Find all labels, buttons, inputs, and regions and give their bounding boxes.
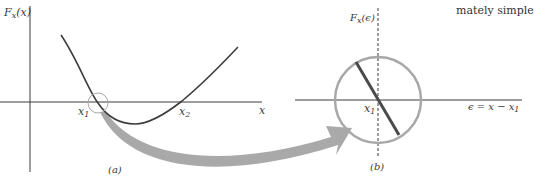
magnify-arrow: [100, 112, 352, 167]
body-text-fragment: mately simple: [456, 5, 534, 16]
panel-a-root-x1: x1: [78, 106, 89, 119]
panel-b-caption: (b): [370, 162, 384, 172]
panel-b-y-label: Fx(ϵ): [350, 13, 375, 25]
panel-a-x-label-text: x: [259, 104, 265, 117]
panel-b-x-label: ϵ = x − x1: [468, 102, 519, 114]
panel-b-y-label-arg: (ϵ): [361, 12, 374, 23]
panel-a-caption: (a): [108, 165, 122, 175]
origin-x1-sub: 1: [370, 107, 375, 116]
panel-a-y-label-arg: (x): [16, 6, 31, 19]
panel-b-x-label-sub: 1: [514, 105, 519, 114]
panel-b-origin-label: x1: [364, 103, 375, 116]
panel-a-x-label: x: [259, 105, 265, 116]
panel-b-y-label-main: F: [350, 12, 357, 23]
panel-a-y-label: Fx(x): [4, 7, 31, 20]
panel-a-y-label-main: F: [4, 6, 12, 19]
root-x1-sub: 1: [84, 110, 89, 119]
root-x2-sub: 2: [185, 110, 190, 119]
panel-a-root-x2: x2: [179, 106, 190, 119]
panel-b-x-label-main: ϵ = x − x: [468, 101, 514, 112]
